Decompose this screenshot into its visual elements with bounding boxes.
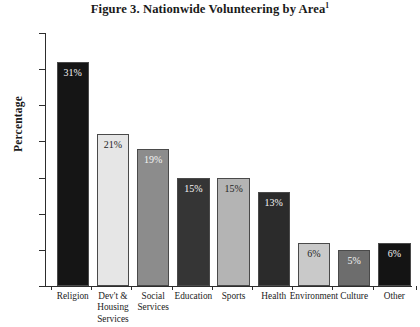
- bar-social-services[interactable]: 19%: [137, 149, 170, 286]
- x-tick-mark: [212, 286, 213, 290]
- x-tick-mark: [51, 286, 52, 290]
- bar-value-label: 15%: [218, 183, 249, 194]
- bar-religion[interactable]: 31%: [57, 62, 90, 286]
- x-tick-mark: [416, 286, 417, 290]
- bar-value-label: 5%: [339, 255, 370, 266]
- x-axis-labels: ReligionDev't &HousingServicesSocialServ…: [45, 291, 412, 327]
- x-axis-label-line: Services: [125, 302, 181, 313]
- x-tick-mark: [252, 286, 253, 290]
- figure-container: Figure 3. Nationwide Volunteering by Are…: [0, 0, 420, 327]
- chart-title-footnote-marker: 1: [325, 1, 329, 10]
- bar-environment[interactable]: 6%: [298, 243, 331, 286]
- bar-value-label: 13%: [259, 197, 290, 208]
- bar-sports[interactable]: 15%: [217, 178, 250, 286]
- bar-series: 31%21%19%15%15%13%6%5%6%: [45, 33, 412, 286]
- bar-other[interactable]: 6%: [378, 243, 411, 286]
- bar-value-label: 19%: [138, 154, 169, 165]
- plot-area: 05101520253035 31%21%19%15%15%13%6%5%6% …: [45, 33, 412, 286]
- chart-title-text: Figure 3. Nationwide Volunteering by Are…: [91, 2, 326, 16]
- bar-value-label: 6%: [379, 248, 410, 259]
- chart-title: Figure 3. Nationwide Volunteering by Are…: [0, 1, 420, 17]
- bar-education[interactable]: 15%: [177, 178, 210, 286]
- x-tick-mark: [131, 286, 132, 290]
- bar-value-label: 6%: [299, 248, 330, 259]
- bar-value-label: 15%: [178, 183, 209, 194]
- x-tick-mark: [91, 286, 92, 290]
- x-axis-label-line: Services: [85, 314, 141, 325]
- bar-dev-t-housing-services[interactable]: 21%: [97, 134, 130, 286]
- bar-culture[interactable]: 5%: [338, 250, 371, 286]
- x-tick-mark: [373, 286, 374, 290]
- bar-value-label: 31%: [58, 67, 89, 78]
- bar-value-label: 21%: [98, 139, 129, 150]
- x-tick-mark: [292, 286, 293, 290]
- y-axis-title: Percentage: [12, 59, 24, 189]
- bar-health[interactable]: 13%: [258, 192, 291, 286]
- x-tick-mark: [332, 286, 333, 290]
- x-tick-mark: [172, 286, 173, 290]
- x-axis-label-line: Other: [366, 291, 420, 302]
- x-axis-label-other: Other: [366, 291, 420, 302]
